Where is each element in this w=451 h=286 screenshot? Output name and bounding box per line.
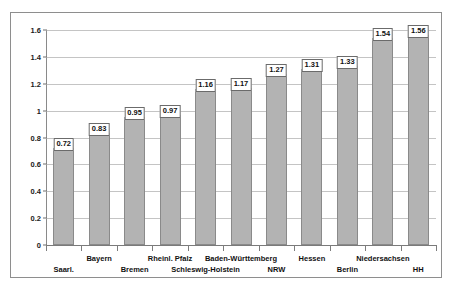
x-category-label: Berlin [337, 265, 358, 274]
x-tick-mark [81, 245, 82, 251]
x-category-label: Saarl. [54, 265, 74, 274]
plot-area: 00.20.40.60.811.21.41.6 0.720.830.950.97… [46, 30, 436, 245]
bar-value-label: 1.17 [231, 78, 252, 91]
x-category-label: Bayern [86, 254, 111, 263]
bar-value-label: 0.72 [53, 138, 74, 151]
y-tick-label: 1.2 [31, 79, 41, 88]
y-tick-mark [43, 164, 47, 165]
x-tick-mark [223, 245, 224, 251]
bar-value-label: 1.56 [408, 25, 429, 38]
x-category-label: Baden-Württemberg [205, 254, 277, 263]
bar-value-label: 1.27 [266, 64, 287, 77]
y-tick-mark [43, 30, 47, 31]
bar-value-label: 1.54 [373, 28, 394, 41]
x-category-label: Niedersachsen [356, 254, 409, 263]
x-tick-mark [401, 245, 402, 251]
bar-value-label: 0.97 [160, 105, 181, 118]
bar: 1.54 [372, 38, 393, 245]
y-tick-mark [43, 191, 47, 192]
x-tick-mark [46, 245, 47, 251]
x-category-label: Rheinl. Pfalz [148, 254, 193, 263]
y-tick-mark [43, 218, 47, 219]
x-category-label: NRW [268, 265, 286, 274]
gridline [46, 245, 436, 246]
bar: 1.56 [408, 35, 429, 245]
y-tick-mark [43, 137, 47, 138]
x-tick-mark [152, 245, 153, 251]
bar: 1.33 [337, 66, 358, 245]
bar: 0.97 [160, 115, 181, 245]
bar: 0.83 [89, 133, 110, 245]
y-tick-label: 0.4 [31, 187, 41, 196]
y-tick-mark [43, 110, 47, 111]
x-category-label: Schleswig-Holstein [171, 265, 240, 274]
chart-figure-frame: 00.20.40.60.811.21.41.6 0.720.830.950.97… [10, 12, 442, 278]
x-tick-mark [365, 245, 366, 251]
bar: 1.16 [195, 89, 216, 245]
y-tick-label: 1.6 [31, 26, 41, 35]
bar: 1.31 [301, 69, 322, 245]
bar-value-label: 1.31 [302, 59, 323, 72]
y-tick-label: 0.8 [31, 133, 41, 142]
bar: 1.17 [231, 88, 252, 245]
x-tick-mark [436, 245, 437, 251]
y-tick-label: 1.4 [31, 52, 41, 61]
y-tick-label: 0 [37, 241, 41, 250]
y-tick-label: 0.6 [31, 160, 41, 169]
x-tick-mark [188, 245, 189, 251]
y-tick-label: 0.2 [31, 214, 41, 223]
x-category-label: HH [413, 265, 424, 274]
bar-value-label: 1.16 [195, 79, 216, 92]
bar: 1.27 [266, 74, 287, 245]
y-tick-label: 1 [37, 106, 41, 115]
bar: 0.95 [124, 117, 145, 245]
x-tick-mark [259, 245, 260, 251]
bar-value-label: 0.83 [89, 123, 110, 136]
y-tick-mark [43, 56, 47, 57]
bar-value-label: 1.33 [337, 56, 358, 69]
bar-value-label: 0.95 [124, 107, 145, 120]
x-category-label: Bremen [121, 265, 149, 274]
x-tick-mark [330, 245, 331, 251]
bar: 0.72 [53, 148, 74, 245]
x-tick-mark [294, 245, 295, 251]
x-category-label: Hessen [299, 254, 326, 263]
clipped-header-remnant [6, 0, 266, 6]
x-tick-mark [117, 245, 118, 251]
y-tick-mark [43, 83, 47, 84]
